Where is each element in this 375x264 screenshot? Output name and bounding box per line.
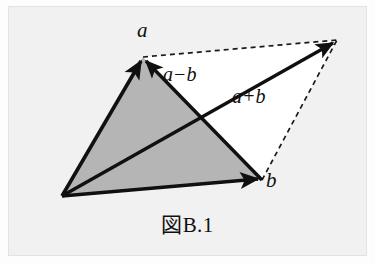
figure-container: a b a−b a+b 図B.1 — [0, 0, 375, 264]
figure-caption: 図B.1 — [0, 208, 375, 238]
label-vector-sum: a+b — [232, 86, 266, 106]
label-vector-b: b — [266, 170, 277, 191]
label-vector-difference: a−b — [163, 64, 197, 84]
label-vector-a: a — [137, 20, 148, 41]
